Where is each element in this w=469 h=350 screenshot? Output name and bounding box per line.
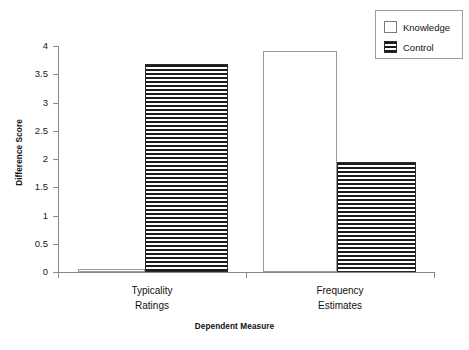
x-tick-mark [58,272,59,278]
y-tick-mark [53,74,59,75]
y-tick-mark [53,46,59,47]
y-tick-label: 4 [8,41,48,51]
x-category-label-line: Typicality [72,283,232,298]
striped-square-icon [384,41,397,53]
x-category-label-line: Estimates [260,298,420,313]
y-axis-title: Difference Score [15,93,24,213]
y-tick-label: 0 [8,267,48,277]
bar-control-2 [337,162,416,272]
y-tick-label: 2.5 [8,126,48,136]
legend-item-label: Control [403,42,434,53]
x-category-label-line: Ratings [72,298,232,313]
chart-legend: KnowledgeControl [375,10,463,59]
y-tick-mark [53,216,59,217]
x-category-label-line: Frequency [260,283,420,298]
x-category-label: FrequencyEstimates [260,283,420,313]
bar-chart-figure: Difference Score 00.511.522.533.54 Typic… [0,0,469,350]
x-tick-mark [434,272,435,278]
legend-item-control: Control [384,38,462,56]
y-tick-mark [53,244,59,245]
y-tick-label: 3.5 [8,69,48,79]
y-tick-label: 3 [8,98,48,108]
legend-item-label: Knowledge [403,22,450,33]
y-tick-label: 0.5 [8,239,48,249]
y-tick-mark [53,187,59,188]
y-tick-mark [53,131,59,132]
y-tick-mark [53,159,59,160]
x-tick-mark [246,272,247,278]
y-tick-label: 1.5 [8,182,48,192]
y-tick-label: 1 [8,211,48,221]
bar-control-1 [145,64,228,272]
empty-square-icon [384,21,397,33]
bar-knowledge-2 [263,51,337,272]
y-tick-label: 2 [8,154,48,164]
legend-item-knowledge: Knowledge [384,18,462,36]
y-tick-mark [53,103,59,104]
bar-knowledge-1 [78,269,145,272]
x-category-label: TypicalityRatings [72,283,232,313]
x-axis-title: Dependent Measure [0,322,469,331]
